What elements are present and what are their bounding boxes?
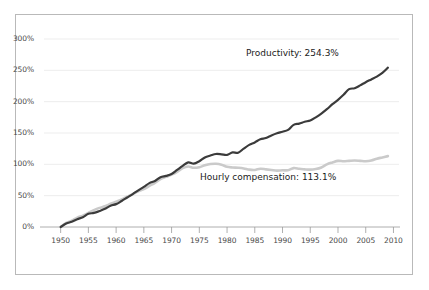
- x-axis-tick-label: 1990: [268, 236, 298, 245]
- x-axis-tick-label: 1955: [73, 236, 103, 245]
- x-axis-tick-label: 1965: [129, 236, 159, 245]
- x-axis-tick-label: 1970: [157, 236, 187, 245]
- x-axis-tick-label: 2000: [323, 236, 353, 245]
- y-axis-tick-label: 0%: [4, 222, 34, 231]
- y-axis-tick-label: 300%: [4, 34, 34, 43]
- y-axis-tick-label: 200%: [4, 97, 34, 106]
- data-series: [61, 68, 388, 227]
- chart-screenshot: 0%50%100%150%200%250%300% 19501955196019…: [0, 0, 429, 290]
- series-line-hourly-compensation: [61, 156, 388, 227]
- x-axis-tick-label: 1960: [101, 236, 131, 245]
- hourly-compensation-series-label: Hourly compensation: 113.1%: [200, 172, 336, 182]
- y-axis-tick-label: 100%: [4, 159, 34, 168]
- x-axis-tick-label: 1950: [46, 236, 76, 245]
- y-axis-tick-label: 50%: [4, 191, 34, 200]
- x-axis-ticks: [61, 227, 394, 233]
- productivity-series-label: Productivity: 254.3%: [246, 48, 339, 58]
- y-axis-tick-label: 150%: [4, 128, 34, 137]
- x-axis-tick-label: 1985: [240, 236, 270, 245]
- y-axis-tick-label: 250%: [4, 65, 34, 74]
- x-axis-tick-label: 1975: [184, 236, 214, 245]
- x-axis-tick-label: 2005: [351, 236, 381, 245]
- x-axis-tick-label: 2010: [378, 236, 408, 245]
- x-axis-tick-label: 1980: [212, 236, 242, 245]
- x-axis-tick-label: 1995: [295, 236, 325, 245]
- chart-plot-area: [0, 0, 429, 290]
